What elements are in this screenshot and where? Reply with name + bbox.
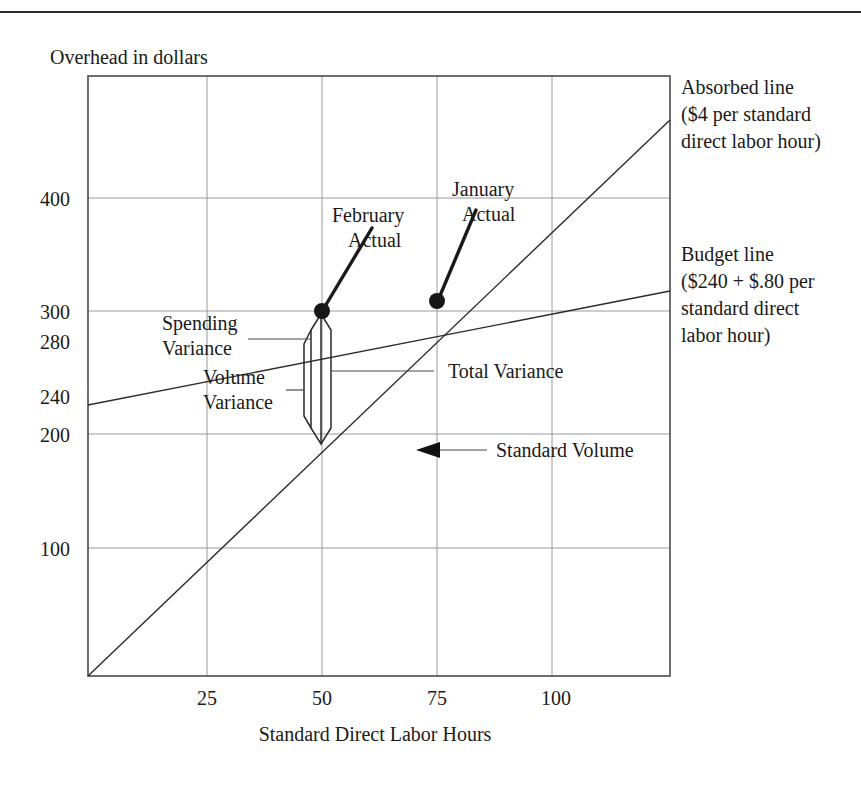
january-actual-point[interactable] <box>429 293 445 309</box>
x-axis-title: Standard Direct Labor Hours <box>259 723 492 745</box>
february-actual-point[interactable] <box>314 303 330 319</box>
volume-variance-label-line-1: Volume <box>203 366 265 388</box>
standard-volume-label: Standard Volume <box>496 439 634 461</box>
total-variance-label: Total Variance <box>448 360 564 382</box>
standard-volume-arrow-icon <box>416 442 440 458</box>
spending-variance-label-line-1: Spending <box>162 312 238 335</box>
january-actual-label-line-1: January <box>452 178 514 201</box>
january-actual-label-line-2: Actual <box>462 203 516 225</box>
x-tick-100: 100 <box>541 687 571 709</box>
x-tick-50: 50 <box>312 687 332 709</box>
volume-variance-label-line-2: Variance <box>203 391 273 413</box>
overhead-variance-chart: Overhead in dollars 400 300 280 240 20 <box>0 0 861 785</box>
january-actual-label: January Actual <box>452 178 516 225</box>
x-tick-labels: 25 50 75 100 <box>197 687 571 709</box>
y-tick-100: 100 <box>40 538 70 560</box>
february-actual-label-line-2: Actual <box>348 229 402 251</box>
variance-bracket-group <box>304 314 331 444</box>
absorbed-line-label-line-1: Absorbed line <box>681 76 794 98</box>
budget-line-label-line-2: ($240 + $.80 per <box>681 270 815 293</box>
budget-line-label-line-1: Budget line <box>681 243 774 266</box>
y-tick-280: 280 <box>40 331 70 353</box>
absorbed-line-label-line-3: direct labor hour) <box>681 130 821 153</box>
standard-volume-annotation: Standard Volume <box>416 439 634 461</box>
february-actual-label-line-1: February <box>332 204 404 227</box>
budget-line-label-line-4: labor hour) <box>681 324 770 347</box>
y-tick-300: 300 <box>40 301 70 323</box>
spending-variance-label-line-2: Variance <box>162 337 232 359</box>
budget-line-annotation: Budget line ($240 + $.80 per standard di… <box>681 243 815 347</box>
spending-variance-label: Spending Variance <box>162 312 238 359</box>
spending-variance-left-shoulder <box>304 330 311 428</box>
y-tick-200: 200 <box>40 424 70 446</box>
x-tick-75: 75 <box>427 687 447 709</box>
x-tick-25: 25 <box>197 687 217 709</box>
absorbed-line-label-line-2: ($4 per standard <box>681 103 811 126</box>
y-tick-240: 240 <box>40 386 70 408</box>
y-tick-400: 400 <box>40 188 70 210</box>
figure-page: Overhead in dollars 400 300 280 240 20 <box>0 0 861 785</box>
budget-line-label-line-3: standard direct <box>681 297 800 319</box>
plot-frame <box>88 76 670 676</box>
y-tick-labels: 400 300 280 240 200 100 <box>40 188 70 560</box>
y-axis-title: Overhead in dollars <box>50 46 208 68</box>
absorbed-line-annotation: Absorbed line ($4 per standard direct la… <box>681 76 821 153</box>
volume-variance-label: Volume Variance <box>203 366 273 413</box>
february-actual-label: February Actual <box>332 204 404 251</box>
